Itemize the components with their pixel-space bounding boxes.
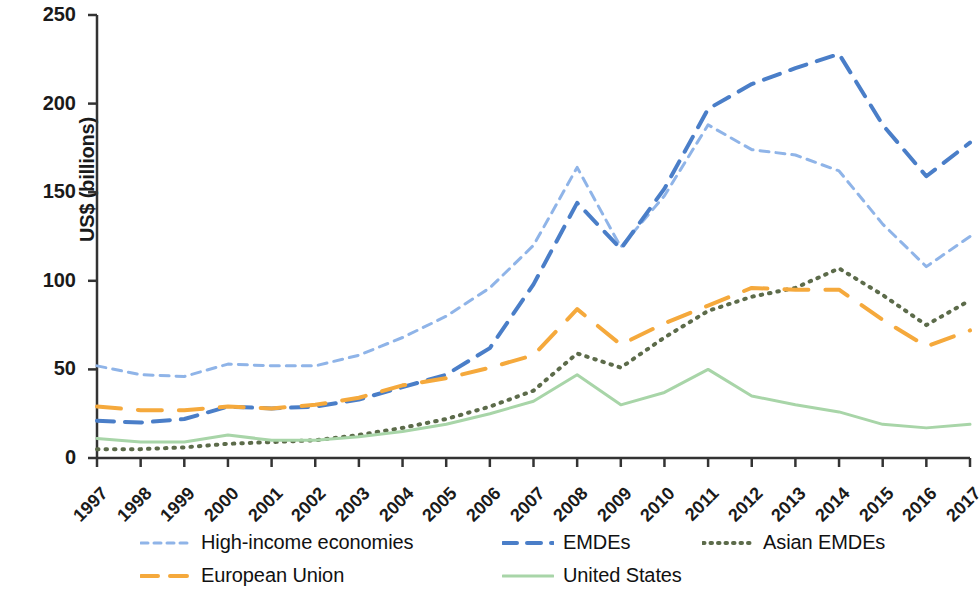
axis-lines <box>88 15 970 467</box>
legend-item[interactable]: United States <box>502 564 682 587</box>
legend-swatch-icon <box>502 536 554 550</box>
legend-swatch-icon <box>702 536 754 550</box>
series-line-emdes <box>97 54 970 423</box>
series-lines <box>97 54 970 449</box>
legend-label: United States <box>563 564 682 587</box>
legend-swatch-icon <box>140 536 192 550</box>
legend-item[interactable]: European Union <box>140 564 344 587</box>
legend-label: European Union <box>201 564 344 587</box>
legend-item[interactable]: EMDEs <box>502 531 630 554</box>
chart-container: US$ (billions) 050100150200250 199719981… <box>0 0 980 594</box>
legend-swatch-icon <box>140 569 192 583</box>
chart-legend: High-income economiesEMDEsAsian EMDEsEur… <box>140 531 940 593</box>
plot-area <box>0 0 980 594</box>
legend-label: Asian EMDEs <box>763 531 885 554</box>
legend-item[interactable]: Asian EMDEs <box>702 531 885 554</box>
legend-item[interactable]: High-income economies <box>140 531 413 554</box>
series-line-high-income-economies <box>97 125 970 377</box>
legend-label: EMDEs <box>563 531 630 554</box>
legend-swatch-icon <box>502 569 554 583</box>
series-line-asian-emdes <box>97 268 970 449</box>
legend-label: High-income economies <box>201 531 413 554</box>
